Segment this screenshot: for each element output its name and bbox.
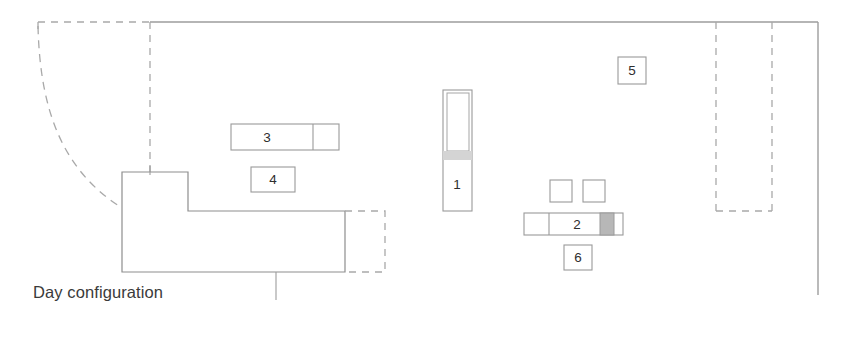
low-horizontal-unit: 2 bbox=[524, 213, 623, 235]
stool-group bbox=[550, 180, 605, 202]
plan-caption: Day configuration bbox=[33, 283, 163, 302]
unit2-gray-block bbox=[600, 213, 614, 235]
unit1-inner-panel bbox=[447, 93, 469, 151]
wide-upper-unit: 3 bbox=[231, 124, 339, 150]
unit1-label: 1 bbox=[453, 177, 461, 192]
stool-left bbox=[550, 180, 572, 202]
stool-right bbox=[583, 180, 605, 202]
unit1-gray-band bbox=[443, 151, 472, 160]
callout4-label: 4 bbox=[269, 172, 277, 187]
callout5-label: 5 bbox=[628, 63, 636, 78]
callout-6: 6 bbox=[564, 245, 592, 270]
callout-5: 5 bbox=[618, 57, 646, 84]
tall-vertical-unit: 1 bbox=[443, 90, 472, 211]
floor-plan-diagram: 3 4 1 2 6 bbox=[0, 0, 856, 339]
unit3-label: 3 bbox=[263, 130, 271, 145]
callout6-label: 6 bbox=[574, 250, 582, 265]
unit2-label: 2 bbox=[573, 217, 581, 232]
callout-4: 4 bbox=[251, 167, 295, 192]
right-dashed-zone bbox=[716, 22, 772, 211]
unit3-body bbox=[231, 124, 339, 150]
sofa-dashed-extension bbox=[345, 211, 385, 272]
door-swing-arc bbox=[38, 26, 122, 208]
sofa-outline bbox=[122, 172, 345, 272]
